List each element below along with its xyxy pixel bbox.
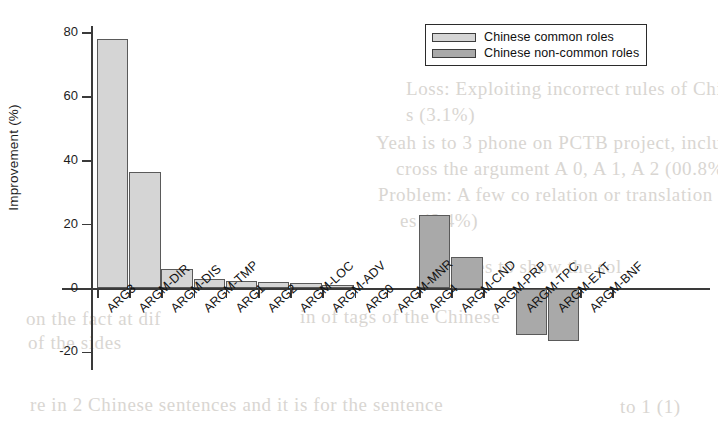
y-tick-label: 0	[44, 280, 78, 295]
legend-swatch-noncommon	[432, 49, 476, 58]
y-tick-label: 20	[44, 216, 78, 231]
y-tick-label: 40	[44, 152, 78, 167]
bar-argm-cnd	[451, 257, 482, 289]
y-tick-mark	[82, 32, 92, 34]
y-tick-mark	[82, 352, 92, 354]
legend-item-common: Chinese common roles	[432, 29, 639, 45]
y-axis-line	[91, 26, 93, 370]
bar-arg3	[97, 39, 128, 288]
bar-chart-figure: Improvement (%) -20020406080 ARG3ARGM-DI…	[0, 0, 718, 424]
y-tick-label: 60	[44, 88, 78, 103]
legend-label-noncommon: Chinese non-common roles	[484, 46, 639, 60]
legend-label-common: Chinese common roles	[484, 30, 614, 44]
bar-argm-dir	[129, 172, 160, 289]
y-tick-label: -20	[44, 343, 78, 358]
y-tick-mark	[82, 288, 92, 290]
legend-swatch-common	[432, 33, 476, 42]
chart-legend: Chinese common roles Chinese non-common …	[425, 24, 647, 66]
y-axis-title: Improvement (%)	[6, 68, 21, 248]
y-tick-mark	[82, 160, 92, 162]
y-tick-mark	[82, 224, 92, 226]
legend-item-noncommon: Chinese non-common roles	[432, 45, 639, 61]
y-tick-label: 80	[44, 24, 78, 39]
x-tick-mark	[97, 289, 99, 298]
y-tick-mark	[82, 96, 92, 98]
